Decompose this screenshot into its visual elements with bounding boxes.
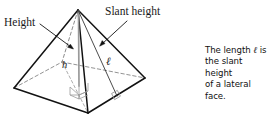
caption-line-3: of a lateral face. (205, 79, 268, 102)
slant-height-leader-line (102, 21, 127, 44)
label-slant-height: Slant height (105, 6, 160, 18)
height-segment (79, 11, 80, 86)
geometry-figure-square-pyramid: Height Slant height h ℓ The length ℓ is … (0, 0, 268, 121)
label-h-symbol: h (62, 60, 67, 71)
caption-text-block: The length ℓ is the slant height of a la… (205, 45, 268, 102)
caption-line-1-suffix: is (257, 45, 266, 55)
caption-line-1-prefix: The length (205, 45, 253, 55)
hidden-edge-left-back (14, 62, 62, 88)
height-leader (40, 24, 74, 49)
height-leader-line (40, 24, 71, 47)
slant-height-leader (100, 21, 127, 46)
label-ell-symbol: ℓ (106, 56, 111, 67)
lateral-edge-apex-right (78, 10, 145, 78)
slant-height-segment (78, 10, 117, 96)
hidden-lateral-edge-apex-back (62, 10, 78, 62)
label-height: Height (4, 17, 35, 29)
caption-line-2: the slant height (205, 56, 268, 79)
marker-face-left (70, 87, 79, 99)
caption-line-1: The length ℓ is (205, 45, 268, 56)
